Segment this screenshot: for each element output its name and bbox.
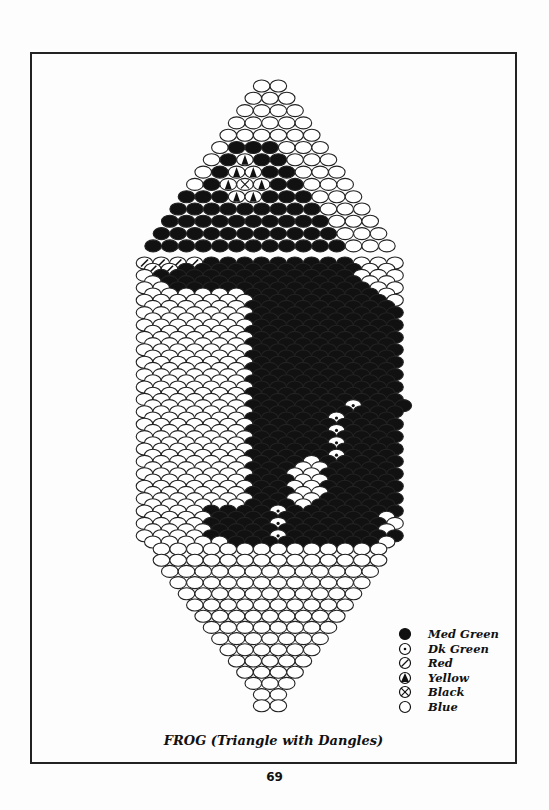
bead-med-green (153, 228, 170, 240)
legend-item-yellow: Yellow (398, 671, 499, 686)
bead-blue (253, 543, 270, 555)
bead-med-green (287, 228, 304, 240)
bead-blue (237, 577, 254, 589)
bead-blue (253, 577, 270, 589)
bead-blue (312, 633, 329, 645)
bead-med-green (170, 228, 187, 240)
bead-blue (312, 588, 329, 600)
bead-med-green (170, 203, 187, 215)
bead-blue (203, 154, 220, 166)
bead-blue (278, 92, 295, 104)
bead-blue (270, 689, 287, 701)
bead-blue (212, 633, 229, 645)
bead-blue (245, 655, 262, 667)
bead-blue (270, 554, 287, 566)
bead-blue (345, 565, 362, 577)
bead-blue (212, 588, 229, 600)
bead-blue (329, 215, 346, 227)
bead-blue (345, 215, 362, 227)
bead-med-green (287, 203, 304, 215)
bead-blue (203, 599, 220, 611)
bead-yellow (245, 166, 262, 178)
bead-med-green (270, 203, 287, 215)
bead-blue (253, 689, 270, 701)
bead-med-green (187, 228, 204, 240)
bead-blue (320, 577, 337, 589)
legend-label: Red (428, 656, 453, 670)
bead-blue (220, 543, 237, 555)
bead-blue (212, 610, 229, 622)
bead-blue (228, 117, 245, 129)
bead-blue (270, 700, 287, 712)
crossed-circle-icon (398, 685, 412, 699)
bead-blue (262, 588, 279, 600)
bead-blue (354, 228, 371, 240)
bead-blue (245, 92, 262, 104)
bead-blue (354, 554, 371, 566)
bead-blue (237, 129, 254, 141)
bead-blue (253, 129, 270, 141)
bead-med-green (262, 142, 279, 154)
bead-blue (329, 191, 346, 203)
bead-blue (312, 142, 329, 154)
bead-med-green (253, 154, 270, 166)
bead-med-green (220, 203, 237, 215)
bead-blue (287, 554, 304, 566)
bead-blue (337, 228, 354, 240)
bead-med-green (203, 178, 220, 190)
bead-blue (370, 554, 387, 566)
bead-yellow (228, 191, 245, 203)
bead-med-green (278, 240, 295, 252)
bead-med-green (178, 191, 195, 203)
bead-blue (228, 565, 245, 577)
bead-med-green (228, 215, 245, 227)
bead-blue (253, 700, 270, 712)
bead-med-green (145, 240, 162, 252)
bead-blue (287, 543, 304, 555)
bead-blue (253, 80, 270, 92)
bead-blue (320, 203, 337, 215)
bead-blue (237, 644, 254, 656)
bead-blue (262, 655, 279, 667)
bead-blue (253, 644, 270, 656)
bead-blue (212, 142, 229, 154)
bead-blue (162, 565, 179, 577)
bead-blue (278, 588, 295, 600)
bead-blue (337, 178, 354, 190)
bead-blue (270, 105, 287, 117)
bead-med-green (203, 203, 220, 215)
filled-circle-icon (398, 627, 412, 641)
bead-blue (187, 599, 204, 611)
bead-blue (220, 621, 237, 633)
bead-blue (278, 633, 295, 645)
bead-blue (228, 633, 245, 645)
bead-med-green (228, 142, 245, 154)
bead-blue (195, 166, 212, 178)
bead-blue (312, 610, 329, 622)
bead-blue (362, 215, 379, 227)
bead-blue (270, 80, 287, 92)
legend-item-red: Red (398, 656, 499, 671)
bead-med-green (270, 228, 287, 240)
bead-blue (303, 599, 320, 611)
slashed-circle-icon (398, 656, 412, 670)
bead-med-green (228, 240, 245, 252)
triangle-circle-icon (398, 671, 412, 685)
bead-med-green (278, 191, 295, 203)
bead-blue (212, 565, 229, 577)
bead-blue (320, 621, 337, 633)
bead-blue (170, 543, 187, 555)
bead-med-green (312, 215, 329, 227)
bead-blue (312, 166, 329, 178)
bead-blue (345, 240, 362, 252)
bead-blue (303, 129, 320, 141)
bead-blue (312, 191, 329, 203)
bead-blue (329, 588, 346, 600)
bead-med-green (162, 215, 179, 227)
bead-med-green (195, 240, 212, 252)
bead-blue (187, 178, 204, 190)
bead-blue (295, 117, 312, 129)
bead-blue (320, 154, 337, 166)
bead-blue (329, 565, 346, 577)
bead-blue (379, 240, 396, 252)
